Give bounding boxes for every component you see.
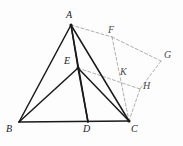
vertex-dot-A [69,23,72,26]
label-D: D [83,124,90,134]
figure-canvas [0,0,183,146]
geometry-figure: A B C D E F G H K [0,0,183,146]
label-B: B [6,124,12,134]
label-K: K [120,67,127,77]
segment-AB [19,25,71,122]
segment-HC [129,89,140,121]
label-E: E [64,56,70,66]
label-F: F [108,25,114,35]
segment-BC [19,121,129,122]
segment-FC [112,37,129,121]
label-C: C [131,124,138,134]
label-H: H [143,81,150,91]
segment-BE [19,68,78,122]
vertex-dot-E [76,66,79,69]
label-G: G [164,50,171,60]
segment-FG [112,37,161,61]
label-A: A [66,10,72,20]
